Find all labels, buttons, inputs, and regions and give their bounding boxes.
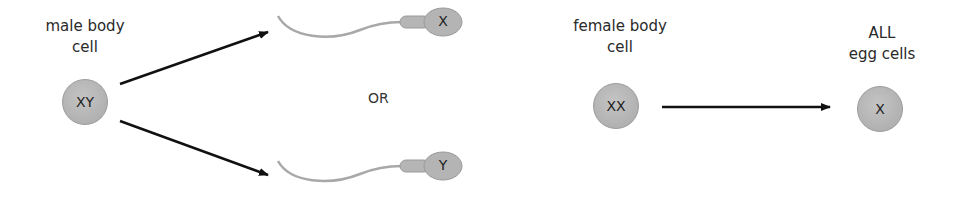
female-body-cell-label: female body cell	[550, 16, 690, 58]
egg-label-line1: ALL	[822, 23, 942, 44]
female-cell-xx: XX	[593, 83, 639, 129]
female-label-line1: female body	[550, 16, 690, 37]
egg-label-line2: egg cells	[822, 44, 942, 65]
male-label-line2: cell	[20, 37, 150, 58]
male-label-line1: male body	[20, 16, 150, 37]
arrow-to-y-sperm	[120, 121, 268, 175]
egg-cell-x: X	[857, 86, 903, 132]
egg-cells-label: ALL egg cells	[822, 23, 942, 65]
or-label: OR	[368, 90, 389, 106]
male-body-cell-label: male body cell	[20, 16, 150, 58]
male-cell-xy: XY	[62, 79, 108, 125]
sperm-x-label: X	[425, 13, 461, 29]
female-label-line2: cell	[550, 37, 690, 58]
sperm-y-label: Y	[425, 157, 461, 173]
